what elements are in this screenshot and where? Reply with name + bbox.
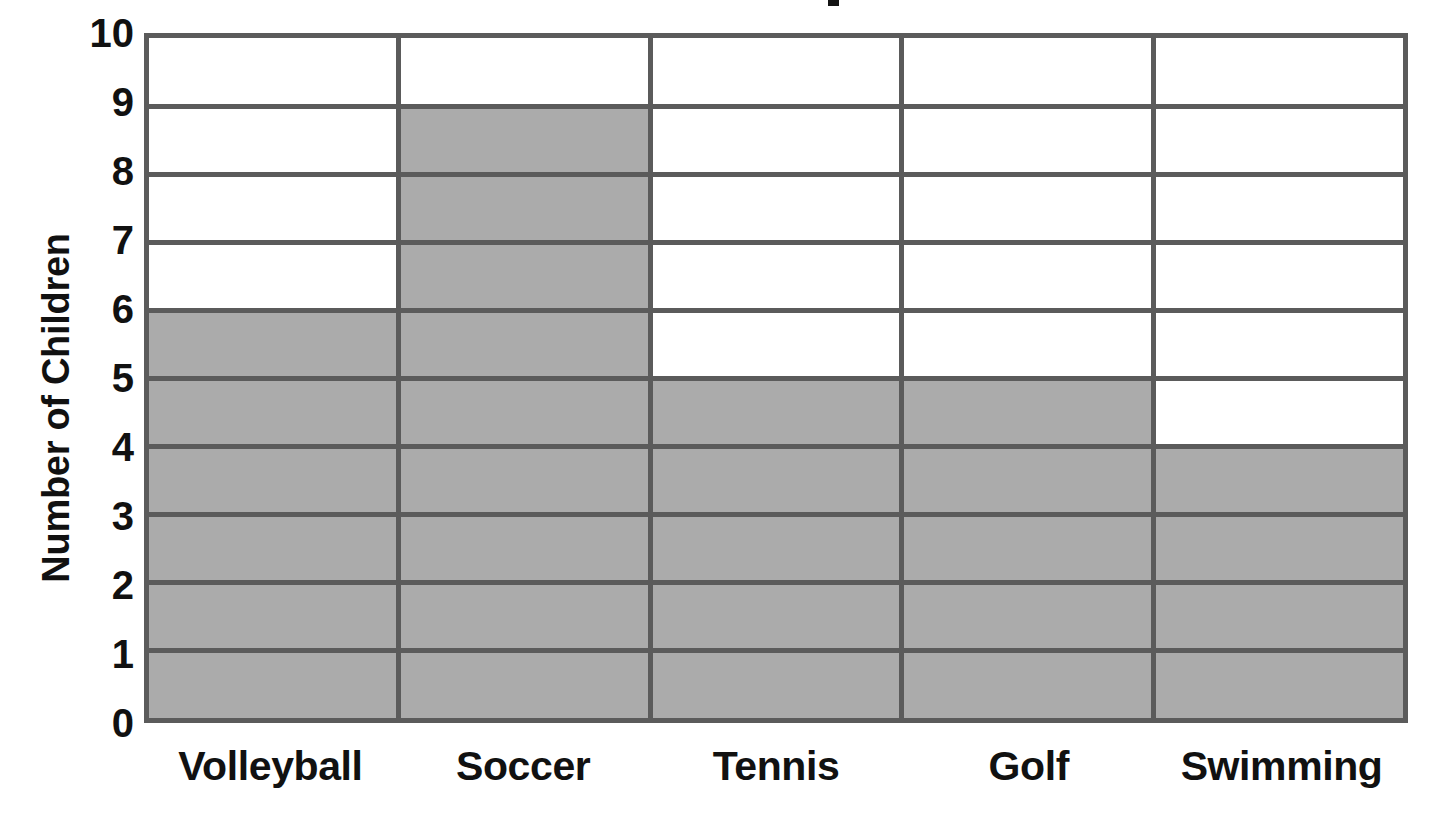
- bar-column-golf[interactable]: [899, 38, 1151, 718]
- bar-columns: [149, 38, 1403, 718]
- bar-golf[interactable]: [904, 378, 1151, 718]
- x-axis-category-labels: VolleyballSoccerTennisGolfSwimming: [144, 735, 1408, 797]
- y-axis-tick-0: 0: [62, 700, 134, 746]
- bar-swimming[interactable]: [1156, 446, 1403, 718]
- plot-area: [144, 33, 1408, 723]
- x-axis-label-volleyball: Volleyball: [144, 735, 397, 797]
- y-axis-tick-2: 2: [62, 562, 134, 608]
- bar-chart: Number of Children 109876543210 Volleyba…: [0, 0, 1435, 823]
- bar-volleyball[interactable]: [149, 310, 396, 718]
- x-axis-label-soccer: Soccer: [397, 735, 650, 797]
- y-axis-tick-7: 7: [62, 217, 134, 263]
- y-axis-tick-5: 5: [62, 355, 134, 401]
- y-axis-tick-3: 3: [62, 493, 134, 539]
- y-axis-tick-4: 4: [62, 424, 134, 470]
- y-axis-tick-1: 1: [62, 631, 134, 677]
- bar-soccer[interactable]: [401, 106, 648, 718]
- x-axis-label-swimming: Swimming: [1155, 735, 1408, 797]
- y-axis-tick-10: 10: [62, 10, 134, 56]
- bar-column-tennis[interactable]: [648, 38, 900, 718]
- bar-column-soccer[interactable]: [396, 38, 648, 718]
- x-axis-label-golf: Golf: [902, 735, 1155, 797]
- bar-column-volleyball[interactable]: [149, 38, 396, 718]
- cropped-title-fragment: [828, 0, 839, 6]
- x-axis-label-tennis: Tennis: [650, 735, 903, 797]
- y-axis-tick-labels: 109876543210: [62, 33, 134, 723]
- bar-tennis[interactable]: [653, 378, 900, 718]
- y-axis-tick-6: 6: [62, 286, 134, 332]
- bar-column-swimming[interactable]: [1151, 38, 1403, 718]
- y-axis-tick-8: 8: [62, 148, 134, 194]
- y-axis-tick-9: 9: [62, 79, 134, 125]
